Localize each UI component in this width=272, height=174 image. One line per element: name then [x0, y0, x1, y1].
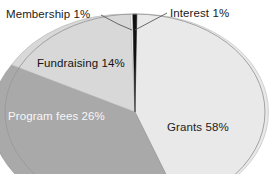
slice-label-program-fees: Program fees 26%: [8, 110, 105, 122]
slice-label-grants: Grants 58%: [167, 121, 229, 133]
pie-chart: Membership 1% Interest 1% Fundraising 14…: [0, 0, 272, 174]
pie-slices: [0, 14, 268, 174]
slice-label-membership: Membership 1%: [6, 8, 90, 20]
pie-slice-grants[interactable]: [135, 14, 268, 174]
pie-chart-graphic: [0, 0, 272, 174]
slice-label-interest: Interest 1%: [170, 7, 229, 19]
slice-label-fundraising: Fundraising 14%: [37, 57, 125, 69]
